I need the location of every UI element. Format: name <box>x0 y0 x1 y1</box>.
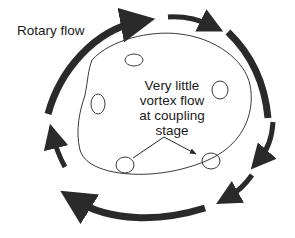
vortex-label-line-1: Very little <box>117 78 227 93</box>
vortex-loop-left <box>91 94 105 114</box>
vortex-flow-label: Very little vortex flow at coupling stag… <box>117 78 227 138</box>
rotary-arrow-lower-right <box>227 175 252 198</box>
rotary-arrow-right <box>228 32 268 118</box>
rotary-arrow-bottom <box>75 200 205 218</box>
vortex-label-line-4: stage <box>117 123 227 138</box>
vortex-label-line-2: vortex flow <box>117 93 227 108</box>
vortex-loop-top-left <box>125 54 143 66</box>
pointer-line-left <box>133 137 164 158</box>
pointer-line-right <box>164 137 196 154</box>
rotary-arrow-top <box>168 17 212 26</box>
pointer-lines <box>133 137 196 158</box>
rotary-arrow-right-lower <box>259 122 273 160</box>
vortex-label-line-3: at coupling <box>117 108 227 123</box>
rotary-flow-label: Rotary flow <box>17 23 85 38</box>
vortex-loop-bottom-left <box>116 157 134 173</box>
rotary-arrow-lower-left <box>53 136 65 167</box>
